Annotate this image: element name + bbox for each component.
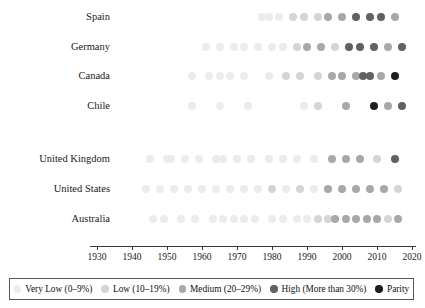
x-axis-tick bbox=[412, 246, 413, 250]
data-point bbox=[338, 13, 346, 21]
x-axis-tick bbox=[307, 246, 308, 250]
data-point bbox=[230, 43, 238, 51]
data-point bbox=[356, 155, 364, 163]
data-point bbox=[282, 72, 290, 80]
data-point bbox=[314, 13, 322, 21]
data-point bbox=[352, 215, 360, 223]
legend-item: Low (10–19%) bbox=[101, 284, 169, 294]
x-axis-tick-label: 1940 bbox=[123, 252, 142, 262]
data-point bbox=[188, 102, 196, 110]
data-point bbox=[233, 155, 241, 163]
data-point bbox=[160, 215, 168, 223]
data-point bbox=[268, 43, 276, 51]
data-point bbox=[366, 13, 374, 21]
legend-item: Very Low (0–9%) bbox=[14, 284, 93, 294]
data-point bbox=[377, 13, 385, 21]
data-point bbox=[314, 102, 322, 110]
data-point bbox=[240, 72, 248, 80]
x-axis-tick bbox=[167, 246, 168, 250]
x-axis-tick bbox=[202, 246, 203, 250]
data-point bbox=[170, 185, 178, 193]
legend-label: Low (10–19%) bbox=[113, 284, 170, 294]
data-point bbox=[370, 102, 378, 110]
data-point bbox=[240, 185, 248, 193]
data-point bbox=[209, 215, 217, 223]
x-axis-tick-label: 1930 bbox=[88, 252, 107, 262]
data-point bbox=[366, 72, 374, 80]
x-axis-tick-label: 2010 bbox=[368, 252, 387, 262]
legend-item: High (More than 30%) bbox=[270, 284, 366, 294]
data-point bbox=[303, 215, 311, 223]
legend-swatch-icon bbox=[14, 285, 22, 293]
legend-swatch-icon bbox=[101, 285, 109, 293]
data-point bbox=[247, 155, 255, 163]
data-point bbox=[293, 215, 301, 223]
data-point bbox=[275, 13, 283, 21]
data-point bbox=[282, 185, 290, 193]
legend-swatch-icon bbox=[375, 285, 383, 293]
data-point bbox=[314, 215, 322, 223]
data-point bbox=[226, 72, 234, 80]
legend-label: High (More than 30%) bbox=[282, 284, 367, 294]
data-point bbox=[296, 72, 304, 80]
data-point bbox=[181, 155, 189, 163]
data-point bbox=[384, 215, 392, 223]
x-axis-tick-label: 1960 bbox=[193, 252, 212, 262]
x-axis-tick bbox=[237, 246, 238, 250]
data-point bbox=[328, 72, 336, 80]
data-point bbox=[268, 185, 276, 193]
data-point bbox=[216, 72, 224, 80]
data-point bbox=[331, 215, 339, 223]
legend: Very Low (0–9%)Low (10–19%)Medium (20–29… bbox=[9, 278, 414, 300]
legend-swatch-icon bbox=[179, 285, 187, 293]
data-point bbox=[254, 185, 262, 193]
data-point bbox=[373, 155, 381, 163]
data-point bbox=[366, 185, 374, 193]
data-point bbox=[293, 155, 301, 163]
data-point bbox=[342, 102, 350, 110]
data-point bbox=[244, 102, 252, 110]
data-point bbox=[338, 185, 346, 193]
data-point bbox=[198, 185, 206, 193]
legend-item: Parity bbox=[375, 284, 409, 294]
data-point bbox=[149, 215, 157, 223]
data-point bbox=[279, 43, 287, 51]
data-point bbox=[216, 43, 224, 51]
data-point bbox=[300, 13, 308, 21]
data-point bbox=[338, 72, 346, 80]
data-point bbox=[184, 185, 192, 193]
x-axis-tick-label: 1950 bbox=[158, 252, 177, 262]
data-point bbox=[398, 102, 406, 110]
legend-label: Very Low (0–9%) bbox=[25, 284, 92, 294]
data-point bbox=[324, 185, 332, 193]
data-point bbox=[373, 215, 381, 223]
data-point bbox=[251, 215, 259, 223]
data-point bbox=[240, 215, 248, 223]
data-point bbox=[391, 72, 399, 80]
data-point bbox=[352, 185, 360, 193]
data-point bbox=[394, 185, 402, 193]
legend-label: Parity bbox=[387, 284, 409, 294]
plot-area bbox=[0, 0, 425, 240]
data-point bbox=[293, 43, 301, 51]
data-point bbox=[226, 185, 234, 193]
x-axis-tick-label: 2000 bbox=[333, 252, 352, 262]
data-point bbox=[391, 13, 399, 21]
data-point bbox=[240, 43, 248, 51]
dot-plot-chart: SpainGermanyCanadaChileUnited KingdomUni… bbox=[0, 0, 425, 308]
x-axis-tick-label: 1970 bbox=[228, 252, 247, 262]
data-point bbox=[156, 185, 164, 193]
x-axis-tick bbox=[342, 246, 343, 250]
data-point bbox=[363, 215, 371, 223]
data-point bbox=[289, 13, 297, 21]
data-point bbox=[380, 185, 388, 193]
data-point bbox=[370, 43, 378, 51]
x-axis: 1930194019501960197019801990200020102020 bbox=[0, 246, 425, 268]
data-point bbox=[394, 215, 402, 223]
data-point bbox=[310, 185, 318, 193]
data-point bbox=[219, 215, 227, 223]
data-point bbox=[384, 102, 392, 110]
data-point bbox=[328, 155, 336, 163]
x-axis-tick-label: 1990 bbox=[298, 252, 317, 262]
data-point bbox=[142, 185, 150, 193]
